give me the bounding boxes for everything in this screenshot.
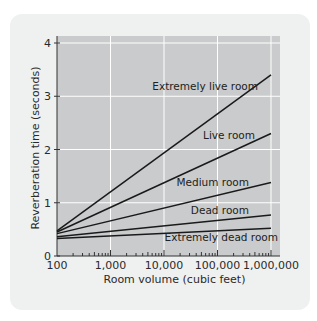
y-axis-label: Reverberation time (seconds) bbox=[29, 66, 42, 229]
series-label: Extremely live room bbox=[152, 80, 258, 92]
x-axis-label: Room volume (cubic feet) bbox=[104, 273, 246, 286]
x-tick-label: 1,000,000 bbox=[243, 259, 299, 272]
series-label: Dead room bbox=[191, 204, 249, 216]
series-label: Extremely dead room bbox=[165, 231, 278, 243]
x-tick-label: 100,000 bbox=[195, 259, 241, 272]
y-tick-label: 4 bbox=[44, 37, 51, 50]
series-label: Medium room bbox=[177, 176, 250, 188]
x-tick-label: 1,000 bbox=[95, 259, 127, 272]
reverberation-chart: Extremely live roomLive roomMedium roomD… bbox=[0, 0, 317, 321]
y-tick-label: 0 bbox=[44, 250, 51, 263]
x-tick-label: 10,000 bbox=[145, 259, 184, 272]
y-tick-label: 3 bbox=[44, 90, 51, 103]
y-tick-label: 1 bbox=[44, 197, 51, 210]
plot-area bbox=[57, 36, 280, 256]
y-tick-label: 2 bbox=[44, 144, 51, 157]
series-label: Live room bbox=[203, 129, 255, 141]
